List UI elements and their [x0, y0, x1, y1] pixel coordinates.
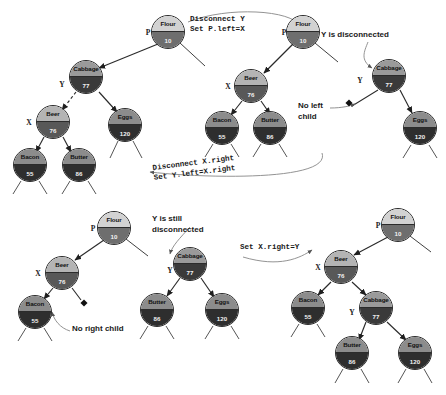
- node-value-label: 120: [404, 128, 436, 144]
- node-value-label: 76: [235, 86, 267, 102]
- pointer-label-y-panel-3: Y: [167, 266, 172, 275]
- node-value-label: 120: [109, 125, 141, 141]
- tree-node-beer-panel-3[interactable]: Beer76: [45, 256, 79, 290]
- node-key-label: Cabbage: [360, 292, 392, 308]
- tree-node-eggs-panel-1[interactable]: Eggs120: [108, 108, 142, 142]
- node-key-label: Flour: [287, 16, 319, 32]
- tree-node-bacon-panel-4[interactable]: Bacon55: [291, 291, 325, 325]
- node-value-label: 55: [292, 308, 324, 324]
- node-key-label: Eggs: [109, 109, 141, 125]
- pointer-label-x-panel-1: X: [26, 118, 31, 127]
- tree-node-beer-panel-2[interactable]: Beer76: [234, 69, 268, 103]
- node-key-label: Butter: [254, 112, 286, 128]
- node-value-label: 77: [70, 77, 102, 93]
- node-value-label: 120: [206, 310, 238, 326]
- node-key-label: Eggs: [404, 112, 436, 128]
- pointer-label-p-panel-1: P: [146, 28, 151, 37]
- node-key-label: Bacon: [19, 296, 51, 312]
- tree-node-flour-panel-3[interactable]: Flour10: [97, 211, 131, 245]
- tree-node-butter-panel-3[interactable]: Butter86: [140, 293, 174, 327]
- node-key-label: Bacon: [206, 112, 238, 128]
- node-value-label: 77: [373, 76, 405, 92]
- pointer-label-p-panel-2: P: [282, 28, 287, 37]
- pointer-label-p-panel-3: P: [91, 224, 96, 233]
- leader-no-left-child: [330, 104, 355, 108]
- node-key-label: Cabbage: [70, 61, 102, 77]
- leader-y-disconnected: [364, 42, 372, 68]
- node-key-label: Flour: [382, 209, 414, 225]
- node-value-label: 86: [254, 128, 286, 144]
- tree-node-bacon-panel-2[interactable]: Bacon55: [205, 111, 239, 145]
- node-key-label: Bacon: [292, 292, 324, 308]
- node-value-label: 10: [382, 225, 414, 241]
- figure-canvas: Flour10Cabbage77Beer76Eggs120Bacon55Butt…: [0, 0, 446, 395]
- pointer-label-x-panel-4: X: [315, 263, 320, 272]
- tree-node-bacon-panel-3[interactable]: Bacon55: [18, 295, 52, 329]
- ann-set-x-right: Set X.right=Y: [240, 242, 299, 252]
- pointer-label-p-panel-4: P: [376, 221, 381, 230]
- pointer-label-y-panel-4: Y: [349, 308, 354, 317]
- node-key-label: Butter: [336, 337, 368, 353]
- tree-node-beer-panel-4[interactable]: Beer76: [324, 250, 358, 284]
- ann-no-left-child: No left child: [298, 101, 323, 123]
- node-value-label: 77: [174, 264, 206, 280]
- node-value-label: 10: [152, 32, 184, 48]
- node-key-label: Beer: [235, 70, 267, 86]
- node-value-label: 77: [360, 308, 392, 324]
- pointer-label-y-panel-2: Y: [357, 76, 362, 85]
- node-key-label: Eggs: [206, 294, 238, 310]
- node-value-label: 86: [336, 353, 368, 369]
- tree-node-flour-panel-1[interactable]: Flour10: [151, 15, 185, 49]
- node-key-label: Bacon: [14, 149, 46, 165]
- tree-node-cabbage-panel-4[interactable]: Cabbage77: [359, 291, 393, 325]
- node-value-label: 76: [46, 273, 78, 289]
- node-key-label: Butter: [63, 149, 95, 165]
- tree-node-flour-panel-2[interactable]: Flour10: [286, 15, 320, 49]
- tree-node-cabbage-panel-1[interactable]: Cabbage77: [69, 60, 103, 94]
- tree-node-butter-panel-4[interactable]: Butter86: [335, 336, 369, 370]
- node-key-label: Beer: [46, 257, 78, 273]
- tree-node-beer-panel-1[interactable]: Beer76: [36, 105, 70, 139]
- node-value-label: 10: [287, 32, 319, 48]
- node-key-label: Butter: [141, 294, 173, 310]
- ann-no-right-child: No right child: [72, 324, 124, 335]
- node-value-label: 86: [141, 310, 173, 326]
- ann-y-disconnected: Y is disconnected: [321, 30, 389, 41]
- pointer-label-x-panel-3: X: [35, 269, 40, 278]
- node-key-label: Flour: [98, 212, 130, 228]
- leader-no-right-child: [52, 312, 70, 331]
- tree-node-bacon-panel-1[interactable]: Bacon55: [13, 148, 47, 182]
- node-key-label: Flour: [152, 16, 184, 32]
- tree-node-butter-panel-2[interactable]: Butter86: [253, 111, 287, 145]
- pointer-label-x-panel-2: X: [225, 82, 230, 91]
- node-value-label: 55: [14, 165, 46, 181]
- node-value-label: 55: [19, 312, 51, 328]
- node-value-label: 55: [206, 128, 238, 144]
- tree-node-eggs-panel-4[interactable]: Eggs120: [398, 336, 432, 370]
- node-value-label: 86: [63, 165, 95, 181]
- tree-node-eggs-panel-3[interactable]: Eggs120: [205, 293, 239, 327]
- node-value-label: 120: [399, 353, 431, 369]
- ann-disconnect-y: Disconnect Y Set P.left=X: [190, 14, 245, 35]
- tree-node-butter-panel-1[interactable]: Butter86: [62, 148, 96, 182]
- node-value-label: 76: [37, 122, 69, 138]
- node-key-label: Cabbage: [373, 60, 405, 76]
- tree-node-cabbage-panel-2[interactable]: Cabbage77: [372, 59, 406, 93]
- node-key-label: Eggs: [399, 337, 431, 353]
- node-key-label: Cabbage: [174, 248, 206, 264]
- ann-y-still-disconnected: Y is still disconnected: [152, 214, 204, 236]
- tree-node-flour-panel-4[interactable]: Flour10: [381, 208, 415, 242]
- node-key-label: Beer: [37, 106, 69, 122]
- node-key-label: Beer: [325, 251, 357, 267]
- node-value-label: 10: [98, 228, 130, 244]
- tree-node-cabbage-panel-3[interactable]: Cabbage77: [173, 247, 207, 281]
- node-value-label: 76: [325, 267, 357, 283]
- tree-node-eggs-panel-2[interactable]: Eggs120: [403, 111, 437, 145]
- pointer-label-y-panel-1: Y: [59, 80, 64, 89]
